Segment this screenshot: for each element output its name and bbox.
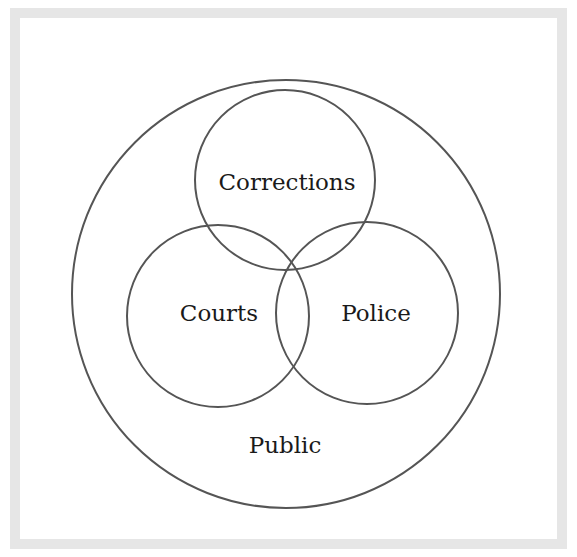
public-label: Public: [249, 432, 322, 458]
police-label: Police: [341, 300, 411, 326]
venn-diagram: Corrections Courts Police Public: [0, 0, 577, 557]
corrections-label: Corrections: [219, 169, 356, 195]
courts-label: Courts: [180, 300, 258, 326]
